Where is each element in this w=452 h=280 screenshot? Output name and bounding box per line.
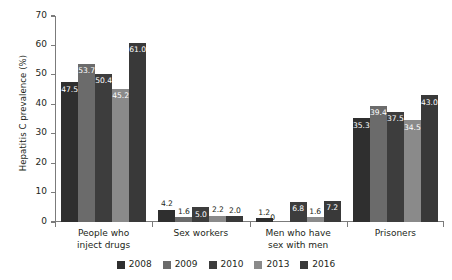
bar[interactable]: 35.3 [353,118,370,222]
bar-value-label: 1.2 [258,209,270,217]
bar-value-label: 34.5 [404,124,421,132]
legend-item[interactable]: 2010 [209,260,244,269]
legend-item[interactable]: 2013 [254,260,289,269]
bar-value-label: 37.5 [387,115,404,123]
x-axis-category-label: People whoinject drugs [55,228,152,251]
bar-value-label: 53.7 [78,67,95,75]
legend-item[interactable]: 2008 [117,260,152,269]
x-axis-tick-mark [443,222,444,227]
bar-value-label: 2.0 [229,207,241,215]
x-axis-tick-mark [347,222,348,227]
bar-group: 1.206.81.67.2 [250,16,347,222]
bar-group: 47.553.750.445.261.0 [55,16,152,222]
bar-group: 35.339.437.534.543.0 [347,16,444,222]
y-axis-tick-label: 30 [36,127,47,137]
legend-item[interactable]: 2016 [300,260,335,269]
y-axis-tick-label: 0 [41,216,47,226]
y-axis-tick-label: 60 [36,39,47,49]
legend-label: 2009 [175,260,198,269]
bar-value-label: 1.6 [178,208,190,216]
bar[interactable]: 61.0 [129,43,146,223]
x-axis-tick-mark [55,222,56,227]
x-axis-category-labels: People whoinject drugsSex workersMen who… [55,228,444,256]
y-axis-tick-label: 40 [36,98,47,108]
x-axis-category-label: Men who havesex with men [250,228,347,251]
legend-label: 2016 [312,260,335,269]
bar[interactable]: 34.5 [404,120,421,222]
x-axis-category-label: Prisoners [347,228,444,240]
legend-swatch-icon [300,261,308,269]
bar[interactable]: 47.5 [61,82,78,222]
bar-value-label: 2.2 [212,206,224,214]
y-axis-tick-label: 50 [36,68,47,78]
bar[interactable]: 50.4 [95,74,112,222]
bar[interactable]: 5.0 [192,207,209,222]
bar[interactable]: 45.2 [112,89,129,222]
legend-swatch-icon [254,261,262,269]
y-axis-tick-label: 10 [36,186,47,196]
x-axis-tick-mark [152,222,153,227]
x-axis-category-label: Sex workers [152,228,249,240]
bar[interactable]: 7.2 [324,201,341,222]
bar[interactable]: 6.8 [290,202,307,222]
legend-swatch-icon [117,261,125,269]
legend-swatch-icon [209,261,217,269]
bar-value-label: 7.2 [326,204,338,212]
bar-value-label: 45.2 [112,92,129,100]
legend: 20082009201020132016 [0,260,452,269]
bar[interactable]: 39.4 [370,106,387,222]
x-axis-tick-mark [250,222,251,227]
legend-swatch-icon [163,261,171,269]
bar-value-label: 39.4 [370,109,387,117]
legend-label: 2008 [129,260,152,269]
bar[interactable]: 4.2 [158,210,175,222]
hepatitis-c-prevalence-bar-chart: Hepatitis C prevalence (%) 0102030405060… [0,0,452,280]
bar-groups: 47.553.750.445.261.04.21.65.02.22.01.206… [55,16,444,222]
bar-value-label: 5.0 [195,211,207,219]
legend-label: 2013 [266,260,289,269]
bar-group: 4.21.65.02.22.0 [152,16,249,222]
bar-value-label: 43.0 [421,99,438,107]
bar-value-label: 0 [270,214,275,222]
bar[interactable]: 37.5 [387,112,404,222]
bar-value-label: 6.8 [292,205,304,213]
bar[interactable]: 43.0 [421,95,438,222]
y-axis-ticks: 010203040506070 [0,16,55,222]
legend-label: 2010 [221,260,244,269]
bar-value-label: 47.5 [61,86,78,94]
bar[interactable]: 53.7 [78,64,95,222]
bar-value-label: 35.3 [353,122,370,130]
bar-value-label: 1.6 [309,208,321,216]
y-axis-tick-label: 70 [36,10,47,20]
bar-value-label: 61.0 [129,46,146,54]
legend-item[interactable]: 2009 [163,260,198,269]
y-axis-tick-label: 20 [36,157,47,167]
bar-value-label: 50.4 [95,77,112,85]
bar-value-label: 4.2 [161,200,173,208]
